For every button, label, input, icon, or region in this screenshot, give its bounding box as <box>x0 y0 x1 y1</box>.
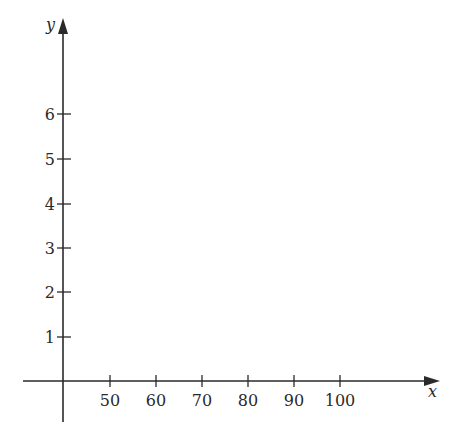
y-axis-label: y <box>45 15 56 34</box>
x-tick-label: 100 <box>325 391 356 410</box>
y-tick-label: 2 <box>45 283 55 302</box>
y-tick-label: 4 <box>45 195 55 214</box>
y-tick-label: 6 <box>45 105 55 124</box>
x-tick-labels: 50 60 70 80 90 100 <box>100 391 355 410</box>
y-tick-label: 1 <box>45 328 55 347</box>
y-tick-label: 5 <box>45 150 55 169</box>
x-tick-label: 50 <box>100 391 120 410</box>
x-tick-label: 70 <box>192 391 212 410</box>
y-tick-labels: 1 2 3 4 5 6 <box>45 105 55 347</box>
axes <box>23 30 428 422</box>
x-axis-label: x <box>428 382 437 401</box>
y-axis-arrow-icon <box>58 18 68 34</box>
coordinate-plane: x y 50 60 70 80 90 100 1 2 3 4 5 6 <box>0 0 463 442</box>
y-ticks <box>57 114 71 337</box>
y-tick-label: 3 <box>45 239 55 258</box>
x-tick-label: 80 <box>238 391 258 410</box>
x-tick-label: 60 <box>146 391 166 410</box>
x-tick-label: 90 <box>284 391 304 410</box>
